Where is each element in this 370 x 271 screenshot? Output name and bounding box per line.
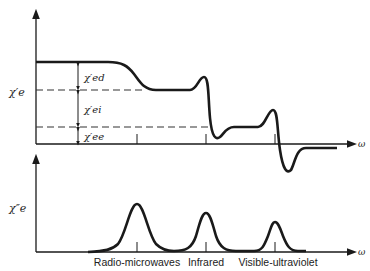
top-x-label: ω [358,139,366,149]
bottom-y-label: χ″e [8,202,27,215]
dielectric-susceptibility-diagram: χ′e χ′ed χ′ei χ′ee ω χ″e ω Radio-microwa… [0,0,370,271]
label-chi-ee: χ′ee [83,131,104,142]
imaginary-part-curve [88,204,306,252]
top-plot: χ′e χ′ed χ′ei χ′ee ω [8,14,366,171]
region-label-radio: Radio-microwaves [94,256,180,268]
region-label-uv: Visible-ultraviolet [238,256,317,268]
real-part-curve [36,62,337,171]
label-chi-ei: χ′ei [83,104,101,115]
bottom-plot: χ″e ω Radio-microwaves Infrared Visible-… [8,159,366,268]
top-y-label: χ′e [8,86,25,99]
label-chi-ed: χ′ed [83,72,105,83]
region-label-infrared: Infrared [188,256,224,268]
bottom-x-label: ω [358,247,366,257]
